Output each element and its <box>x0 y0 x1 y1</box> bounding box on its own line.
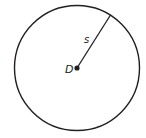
center-point <box>74 65 79 70</box>
radius-label: s <box>84 34 89 45</box>
circle-diagram: s D <box>0 0 146 138</box>
radius-segment <box>77 15 111 68</box>
center-label: D <box>65 63 73 76</box>
